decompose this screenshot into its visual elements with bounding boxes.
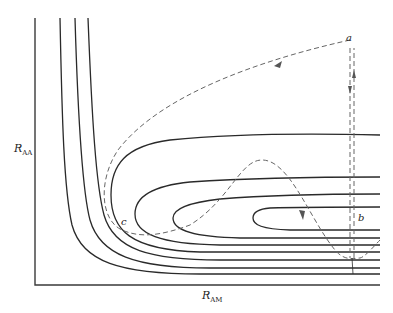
contour-u-3	[173, 194, 380, 238]
contour-l-1	[60, 18, 380, 274]
arrow-icon	[299, 210, 305, 220]
contour-l-3	[88, 18, 380, 260]
contour-diagram	[0, 0, 393, 313]
y-axis-label: RAA	[14, 142, 32, 157]
point-c-label: c	[121, 216, 127, 227]
arrow-icon	[274, 61, 282, 68]
arrow-icon	[348, 86, 352, 94]
point-b-label: b	[358, 212, 364, 223]
trajectory	[104, 40, 380, 259]
point-a-label: a	[346, 32, 352, 43]
arrow-icon	[352, 70, 356, 78]
x-axis-label: RAM	[202, 289, 223, 304]
